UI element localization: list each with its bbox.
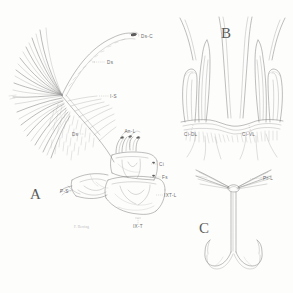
label-ci-dl: Ci-DL <box>184 132 198 137</box>
label-ds-c: Ds-C <box>141 34 153 39</box>
plate-canvas: A B C Ds-C Ds I-S An-L Ds Ci Fs P-S IXT-… <box>0 0 293 293</box>
label-ds-2: Ds <box>72 132 79 137</box>
panel-a-paraproct <box>60 174 108 199</box>
panel-c-fork <box>205 240 262 269</box>
panel-b-right-inner-lobe <box>255 40 266 122</box>
label-ix-t: IX-T <box>133 224 143 229</box>
label-fs: Fs <box>162 175 168 180</box>
panel-b-figure <box>180 17 285 160</box>
panel-b-left-outer-lobe <box>183 69 197 122</box>
panel-letter-b: B <box>221 25 232 41</box>
label-ci: Ci <box>159 162 164 167</box>
label-p-s: P-S <box>60 189 69 194</box>
label-an-l: An-L <box>124 129 135 134</box>
artist-signature: F. Herring <box>74 225 89 229</box>
panel-letter-c: C <box>199 220 210 236</box>
label-pr-l: Pr-L <box>263 176 273 181</box>
panel-c-shaft <box>231 192 236 252</box>
label-ci-vl: Ci-VL <box>242 132 255 137</box>
panel-c-left-rays <box>196 170 230 189</box>
panel-letter-a: A <box>30 186 41 202</box>
label-ds: Ds <box>107 60 114 65</box>
panel-a-tergite-plate <box>105 176 165 214</box>
panel-b-fringe-hairs <box>186 131 277 160</box>
panel-b-right-median-seta-2 <box>269 20 280 60</box>
panel-a-comb-row <box>62 95 116 162</box>
panel-b-left-median-seta-2 <box>185 20 196 60</box>
label-i-s: I-S <box>110 94 117 99</box>
panel-c-articulation <box>228 185 239 192</box>
panel-a-dorsal-arc <box>62 32 139 96</box>
label-ixt-l: IXT-L <box>164 193 177 198</box>
illustration-plate: A B C Ds-C Ds I-S An-L Ds Ci Fs P-S IXT-… <box>0 0 293 293</box>
panel-a-cercal-block <box>111 152 158 180</box>
panel-a-setal-fan <box>13 28 70 158</box>
panel-a-anal-lobes <box>116 131 140 153</box>
panel-b-left-inner-lobe <box>199 40 210 122</box>
panel-b-right-outer-lobe <box>268 69 282 122</box>
